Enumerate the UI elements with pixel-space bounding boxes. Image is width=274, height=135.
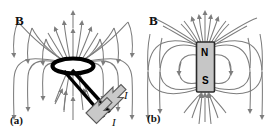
panel-a-caption: (a) xyxy=(10,115,23,126)
north-pole-label: N xyxy=(201,48,208,58)
panel-a-current-loop: B I I (a) xyxy=(0,0,137,135)
field-label-b-panel-b: B xyxy=(149,14,158,27)
magnetic-dipole-figure: B I I (a) xyxy=(0,0,274,135)
panel-b-bar-magnet: N S B (b) xyxy=(137,0,274,135)
current-label-lower: I xyxy=(112,117,116,128)
current-label-upper: I xyxy=(124,90,128,101)
panel-b-caption: (b) xyxy=(147,113,160,124)
field-label-b-panel-a: B xyxy=(15,14,24,27)
south-pole-label: S xyxy=(202,76,209,86)
